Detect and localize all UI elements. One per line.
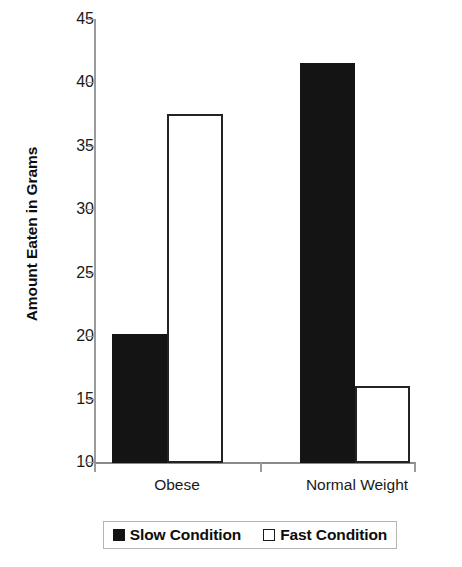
- bar-obese-fast[interactable]: [167, 114, 223, 463]
- legend: Slow Condition Fast Condition: [103, 521, 397, 549]
- bar-chart: Amount Eaten in Grams 45 40 35 30 25 20 …: [0, 0, 462, 567]
- legend-item-fast-condition[interactable]: Fast Condition: [263, 526, 387, 544]
- legend-label-slow-condition: Slow Condition: [130, 526, 241, 544]
- legend-item-slow-condition[interactable]: Slow Condition: [113, 526, 241, 544]
- bar-normal-weight-fast[interactable]: [355, 386, 410, 463]
- legend-swatch-filled-icon: [113, 529, 125, 541]
- legend-swatch-hollow-icon: [263, 529, 275, 541]
- bar-obese-slow[interactable]: [112, 334, 167, 463]
- x-category-label-normal-weight: Normal Weight: [277, 476, 437, 494]
- bar-normal-weight-slow[interactable]: [300, 63, 355, 463]
- x-category-label-obese: Obese: [117, 476, 237, 494]
- legend-label-fast-condition: Fast Condition: [280, 526, 387, 544]
